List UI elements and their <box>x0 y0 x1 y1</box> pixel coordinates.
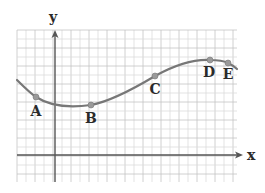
point-label-d: D <box>203 64 215 80</box>
function-graph: x y ABCDE <box>0 0 265 193</box>
point-c <box>152 73 158 79</box>
grid-lines <box>17 30 237 182</box>
point-b <box>88 102 94 108</box>
y-axis-label: y <box>48 9 58 25</box>
point-d <box>207 57 213 63</box>
point-label-a: A <box>30 103 43 119</box>
point-label-c: C <box>149 81 160 97</box>
labeled-points: ABCDE <box>30 57 234 126</box>
x-axis-label: x <box>247 147 256 163</box>
point-label-e: E <box>223 66 234 82</box>
point-label-b: B <box>85 110 97 126</box>
point-a <box>33 94 39 100</box>
